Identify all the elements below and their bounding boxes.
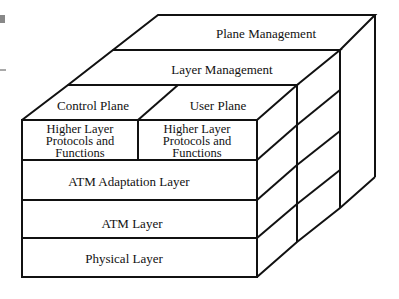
layer-management-label: Layer Management [171,62,273,77]
control-plane-label: Control Plane [57,98,129,113]
higher-layer-user-line3: Functions [172,146,221,160]
margin-marker [0,15,5,23]
atm-layer-label: ATM Layer [101,216,163,231]
physical-layer-label: Physical Layer [85,251,163,266]
protocol-cube-diagram: Plane Management Layer Management Contro… [0,0,399,299]
atm-adaptation-layer-label: ATM Adaptation Layer [68,174,190,189]
side-faces [257,15,375,277]
higher-layer-control-line3: Functions [55,146,104,160]
plane-management-label: Plane Management [216,26,316,41]
user-plane-label: User Plane [190,98,247,113]
